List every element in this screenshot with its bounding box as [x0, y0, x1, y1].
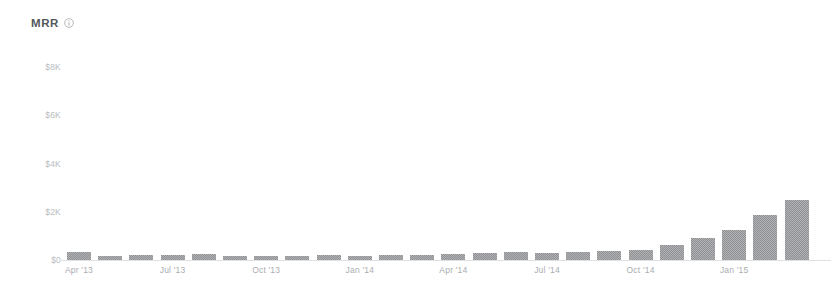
- x-axis-tick-label: Jan '14: [346, 265, 375, 275]
- bar[interactable]: [753, 215, 777, 260]
- x-axis-tick-label: Apr '13: [65, 265, 93, 275]
- bar[interactable]: [566, 252, 590, 260]
- bar[interactable]: [722, 230, 746, 260]
- bar[interactable]: [629, 250, 653, 260]
- bar[interactable]: [691, 238, 715, 260]
- x-axis-tick-label: Jul '13: [160, 265, 186, 275]
- x-axis-tick-label: Apr '14: [439, 265, 467, 275]
- bar[interactable]: [504, 252, 528, 260]
- x-axis-tick-label: Oct '14: [627, 265, 655, 275]
- bar[interactable]: [597, 251, 621, 260]
- bar[interactable]: [535, 253, 559, 260]
- axis-baseline: [61, 260, 831, 261]
- bar[interactable]: [660, 245, 684, 260]
- x-axis-tick-label: Jul '14: [534, 265, 560, 275]
- x-axis-tick-label: Oct '13: [252, 265, 280, 275]
- x-axis-tick-label: Jan '15: [720, 265, 749, 275]
- chart-plot-area: $0$2K$4K$6K$8K Apr '13Jul '13Oct '13Jan …: [0, 0, 837, 300]
- bars-layer: [0, 0, 837, 300]
- bar[interactable]: [473, 253, 497, 260]
- mrr-chart-card: MRR $0$2K$4K$6K$8K Apr '13Jul '13Oct '13…: [0, 0, 837, 300]
- bar[interactable]: [785, 200, 809, 260]
- bar[interactable]: [67, 252, 91, 260]
